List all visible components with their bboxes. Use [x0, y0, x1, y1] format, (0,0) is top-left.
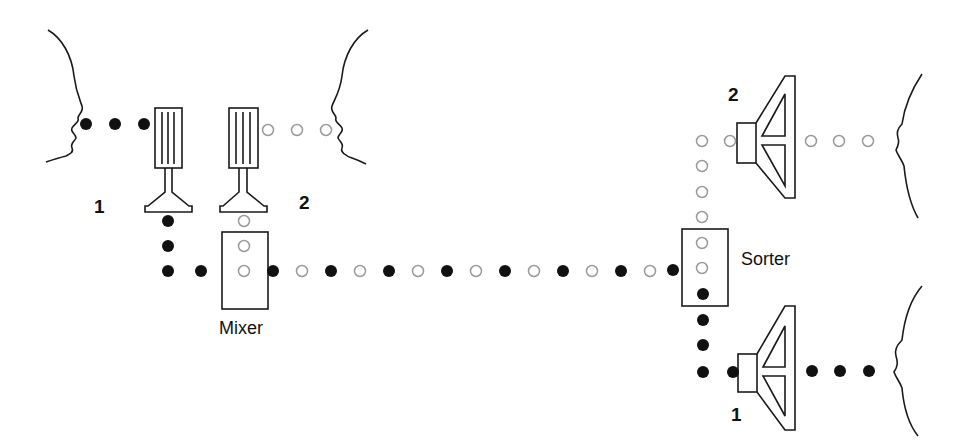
mixer-label: Mixer: [219, 318, 263, 339]
loudspeaker-1-icon: [738, 306, 795, 430]
talker-1-face-icon: [46, 30, 82, 162]
listener-2-face-icon: [896, 74, 922, 218]
microphone-1-icon: [145, 108, 192, 212]
microphone-1-label: 1: [94, 196, 105, 218]
listener-1-face-icon: [894, 286, 922, 436]
diagram-canvas: 1 2 Mixer Sorter 2 1: [0, 0, 969, 446]
mixer-box: [222, 232, 268, 309]
loudspeaker-1-label: 1: [731, 404, 742, 426]
talker-2-face-icon: [332, 30, 368, 164]
loudspeaker-2-icon: [737, 76, 795, 198]
diagram-svg: [0, 0, 969, 446]
loudspeaker-2-label: 2: [728, 84, 739, 106]
sorter-label: Sorter: [741, 249, 790, 270]
microphone-2-icon: [220, 108, 267, 212]
microphone-2-label: 2: [299, 192, 310, 214]
